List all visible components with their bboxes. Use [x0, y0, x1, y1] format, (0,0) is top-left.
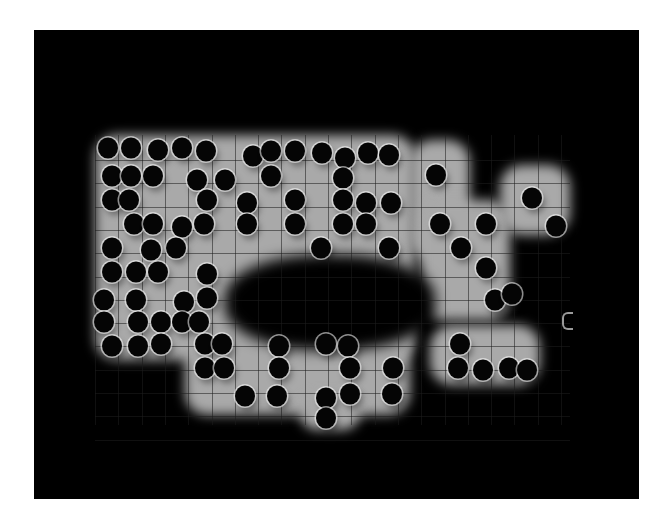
pit-dot	[448, 358, 468, 379]
pit-dot	[316, 388, 336, 409]
grid-line-horizontal	[95, 160, 570, 161]
pit-dot	[212, 334, 232, 355]
grid-line-horizontal	[95, 183, 570, 184]
pit-dot	[285, 190, 305, 211]
grid-line-vertical	[398, 135, 399, 425]
pit-dot	[381, 193, 401, 214]
pit-dot	[194, 214, 214, 235]
grid-line-vertical	[538, 135, 539, 425]
pit-dot	[333, 190, 353, 211]
pit-dot	[128, 336, 148, 357]
pit-dot	[267, 386, 287, 407]
grid-line-vertical	[561, 135, 562, 425]
pit-dot	[243, 146, 263, 167]
pit-dot	[237, 193, 257, 214]
pit-dot	[356, 193, 376, 214]
pit-dot	[379, 145, 399, 166]
pit-dot	[126, 262, 146, 283]
pit-dot	[119, 190, 139, 211]
grid-line-horizontal	[95, 207, 570, 208]
grid-line-vertical	[165, 135, 166, 425]
pit-dot	[102, 166, 122, 187]
pit-dot	[379, 238, 399, 259]
pit-dot	[214, 358, 234, 379]
grid-line-vertical	[258, 135, 259, 425]
pit-dot	[102, 262, 122, 283]
pit-dot	[476, 214, 496, 235]
grid-line-vertical	[514, 135, 515, 425]
pit-dot	[189, 312, 209, 333]
pit-dot	[126, 290, 146, 311]
pit-dot	[356, 214, 376, 235]
pit-dot	[143, 214, 163, 235]
pit-dot	[261, 166, 281, 187]
pit-dot	[102, 336, 122, 357]
pit-dot	[285, 141, 305, 162]
grid-line-horizontal	[95, 253, 570, 254]
pit-dot	[335, 148, 355, 169]
pit-dot	[383, 358, 403, 379]
pit-dot	[237, 214, 257, 235]
pit-dot	[124, 214, 144, 235]
pit-dot	[215, 170, 235, 191]
pit-dot	[546, 216, 566, 237]
pit-dot	[311, 238, 331, 259]
pit-dot	[502, 284, 522, 305]
pit-dot	[338, 336, 358, 357]
pit-dot	[141, 240, 161, 261]
pit-dot	[261, 141, 281, 162]
pit-dot	[94, 290, 114, 311]
pit-dot	[269, 336, 289, 357]
pit-dot	[187, 170, 207, 191]
pit-dot	[172, 217, 192, 238]
grid-line-vertical	[328, 135, 329, 425]
grid-line-vertical	[491, 135, 492, 425]
pit-dot	[450, 334, 470, 355]
pit-dot	[166, 238, 186, 259]
pit-dot	[128, 312, 148, 333]
grid-line-vertical	[95, 135, 96, 425]
pit-dot	[148, 262, 168, 283]
bracket-artifact	[562, 312, 573, 330]
pit-dot	[473, 360, 493, 381]
pit-dot	[235, 386, 255, 407]
pit-dot	[94, 312, 114, 333]
pit-dot	[333, 214, 353, 235]
pit-dot	[382, 384, 402, 405]
pit-dot	[451, 238, 471, 259]
pit-dot	[517, 360, 537, 381]
pit-dot	[522, 188, 542, 209]
grid-line-vertical	[281, 135, 282, 425]
grid-line-vertical	[468, 135, 469, 425]
pit-dot	[148, 140, 168, 161]
pit-dot	[172, 138, 192, 159]
pit-dot	[121, 138, 141, 159]
pit-dot	[269, 358, 289, 379]
micrograph-scene	[34, 30, 639, 499]
pit-dot	[151, 312, 171, 333]
pit-dot	[333, 168, 353, 189]
pit-dot	[312, 143, 332, 164]
grid-line-vertical	[375, 135, 376, 425]
pit-dot	[430, 214, 450, 235]
pit-dot	[102, 238, 122, 259]
pit-dot	[195, 358, 215, 379]
grid-line-horizontal	[95, 230, 570, 231]
grid-line-horizontal	[95, 440, 570, 441]
grid-line-vertical	[305, 135, 306, 425]
pit-dot	[340, 384, 360, 405]
pit-dot	[197, 190, 217, 211]
pit-dot	[499, 358, 519, 379]
pit-dot	[143, 166, 163, 187]
pit-dot	[197, 288, 217, 309]
pit-dot	[358, 143, 378, 164]
pit-dot	[316, 334, 336, 355]
micrograph-frame	[34, 30, 639, 499]
pit-dot	[196, 141, 216, 162]
pit-dot	[98, 138, 118, 159]
pit-dot	[197, 264, 217, 285]
pit-dot	[476, 258, 496, 279]
pit-dot	[174, 292, 194, 313]
pit-dot	[121, 166, 141, 187]
pit-dot	[340, 358, 360, 379]
